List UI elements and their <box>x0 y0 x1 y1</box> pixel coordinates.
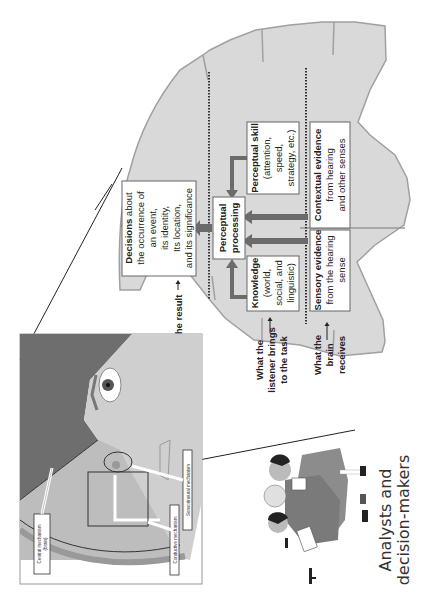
outgoing-arrow-bar-icon <box>309 568 312 584</box>
caption-line1: Analysts and <box>376 469 395 572</box>
result-text: The result <box>173 294 184 340</box>
skill-line2: (attention, <box>261 137 272 179</box>
zoom-line-top <box>20 168 122 360</box>
decisions-title: Decisions <box>123 219 134 264</box>
sensory-line2: from the hearing <box>324 235 335 304</box>
contextual-title: Contextual evidence <box>312 129 323 221</box>
knowledge-title: Knowledge <box>249 258 260 309</box>
decisions-line1: about <box>123 192 134 219</box>
cochlea <box>112 461 120 469</box>
perceptual-processing-text: Perceptual processing <box>217 202 240 253</box>
skill-line3: speed, <box>273 144 284 173</box>
sensorineural-text: Sensorineural mechanism <box>186 464 191 516</box>
decisions-line6: and its significance <box>183 188 194 268</box>
zoom-line-top-2 <box>95 184 112 210</box>
decisions-line3: an event, <box>147 208 158 247</box>
skill-line4: strategy, etc.) <box>285 130 296 187</box>
central-line2: (brain) <box>43 537 48 551</box>
brain-line3: receives <box>336 336 347 374</box>
knowledge-line3: social, and <box>273 260 284 305</box>
conductive-text: Conductive mechanism <box>173 516 178 563</box>
brain-sulcus <box>262 30 263 62</box>
decisions-line2: the occurrence of <box>135 191 146 265</box>
sensory-title: Sensory evidence <box>312 230 323 311</box>
contextual-line2: from hearing <box>324 148 335 201</box>
conductive-label: Conductive mechanism <box>173 516 178 563</box>
pupil-center <box>106 383 110 387</box>
person-head <box>264 485 286 507</box>
knowledge-line2: (world, <box>261 269 272 298</box>
svg-text:Decisions about: Decisions about <box>123 192 134 264</box>
pp-line2: processing <box>229 202 240 253</box>
head-inset: Central mechanism (brain) Conductive mec… <box>20 334 202 584</box>
skill-title: Perceptual skill <box>249 123 260 193</box>
listener-line2: listener brings <box>266 327 277 392</box>
sensorineural-label: Sensorineural mechanism <box>186 464 191 516</box>
knowledge-text: Knowledge (world, social, and linguistic… <box>249 258 296 309</box>
caption-line2: decision-makers <box>394 455 413 586</box>
document-paper <box>292 478 306 490</box>
central-line1: Central mechanism <box>37 524 42 563</box>
brain-sulcus <box>333 22 334 55</box>
person-shoe <box>360 466 366 476</box>
person-legs <box>340 470 362 474</box>
people-illustration <box>264 448 368 584</box>
listener-line1: What the <box>254 340 265 380</box>
people-caption: Analysts and decision-makers <box>376 455 413 586</box>
result-arrowhead-icon <box>176 280 181 284</box>
incoming-arrow-bar-icon <box>285 538 288 548</box>
decisions-line4: its identity, <box>159 206 170 250</box>
knowledge-line4: linguistic) <box>285 263 296 303</box>
level-result-label: The result <box>173 294 184 340</box>
diagram-canvas: Decisions about the occurrence of an eve… <box>0 0 424 614</box>
person-shoe <box>360 494 366 504</box>
listener-line3: to the task <box>278 336 289 384</box>
brain-line1: What the <box>312 335 323 375</box>
person-shoe <box>362 510 368 522</box>
pp-line1: Perceptual <box>217 204 228 253</box>
decisions-line5: Its location, <box>171 204 182 252</box>
sensory-line3: sense <box>336 257 347 282</box>
contextual-line3: and other senses <box>336 138 347 211</box>
brain-line2: brain <box>324 343 335 366</box>
